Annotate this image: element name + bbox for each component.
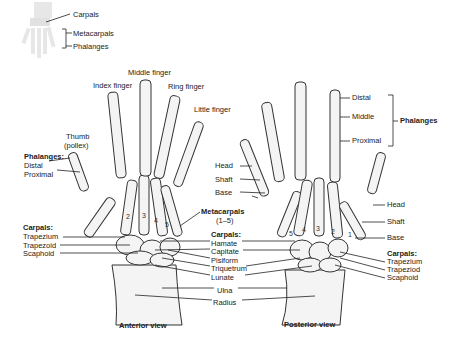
posterior-metacarpal-1: 1 bbox=[348, 231, 352, 238]
anterior-carpals-heading: Carpals: bbox=[23, 224, 53, 232]
posterior-metacarpal-2: 2 bbox=[331, 228, 335, 235]
label-ring-finger: Ring finger bbox=[168, 83, 204, 91]
inset-label-metacarpals: Metacarpals bbox=[73, 30, 114, 38]
label-capitate: Capitate bbox=[211, 248, 239, 256]
label-scaphoid-posterior: Scaphoid bbox=[387, 274, 418, 282]
inset-label-carpals: Carpals bbox=[73, 11, 99, 19]
label-base-right: Base bbox=[387, 234, 404, 242]
posterior-metacarpal-3: 3 bbox=[316, 225, 320, 232]
label-lunate: Lunate bbox=[211, 274, 234, 282]
inset-hand-icon bbox=[21, 2, 55, 58]
label-proximal-anterior: Proximal bbox=[24, 171, 53, 179]
label-middle-posterior: Middle bbox=[352, 113, 374, 121]
label-shaft-left: Shaft bbox=[215, 176, 233, 184]
label-thumb: Thumb bbox=[66, 133, 89, 141]
metacarpals-range: (1–5) bbox=[216, 217, 234, 225]
posterior-metacarpal-5: 5 bbox=[289, 230, 293, 237]
label-triquetrum: Triquetrum bbox=[211, 265, 247, 273]
anterior-metacarpal-5: 5 bbox=[165, 221, 169, 228]
center-carpals-heading: Carpals: bbox=[211, 231, 241, 239]
anterior-metacarpal-2: 2 bbox=[126, 213, 130, 220]
label-middle-finger: Middle finger bbox=[128, 69, 171, 77]
label-distal-anterior: Distal bbox=[24, 162, 43, 170]
label-base-left: Base bbox=[215, 189, 232, 197]
anterior-metacarpal-3: 3 bbox=[142, 212, 146, 219]
label-trapezium-anterior: Trapezium bbox=[23, 233, 58, 241]
hand-bones-diagram: Carpals Metacarpals Phalanges Index fing… bbox=[0, 0, 459, 344]
label-pollex: (pollex) bbox=[64, 142, 89, 150]
posterior-view-title: Posterior view bbox=[284, 321, 335, 329]
label-proximal-posterior: Proximal bbox=[352, 137, 381, 145]
label-scaphoid-anterior: Scaphoid bbox=[23, 250, 54, 258]
metacarpals-heading: Metacarpals bbox=[201, 208, 244, 216]
label-distal-posterior: Distal bbox=[352, 94, 371, 102]
label-radius: Radius bbox=[213, 299, 236, 307]
label-head-right: Head bbox=[387, 201, 405, 209]
label-ulna: Ulna bbox=[217, 287, 232, 295]
posterior-phalanges-heading: Phalanges bbox=[400, 117, 438, 125]
inset-label-phalanges: Phalanges bbox=[73, 43, 108, 51]
anterior-phalanges-heading: Phalanges: bbox=[24, 153, 64, 161]
label-index-finger: Index finger bbox=[93, 82, 132, 90]
label-little-finger: Little finger bbox=[194, 106, 231, 114]
anterior-metacarpal-4: 4 bbox=[154, 217, 158, 224]
label-shaft-right: Shaft bbox=[387, 218, 405, 226]
label-head-left: Head bbox=[215, 162, 233, 170]
anterior-view-title: Anterior view bbox=[119, 322, 167, 330]
posterior-metacarpal-4: 4 bbox=[302, 226, 306, 233]
